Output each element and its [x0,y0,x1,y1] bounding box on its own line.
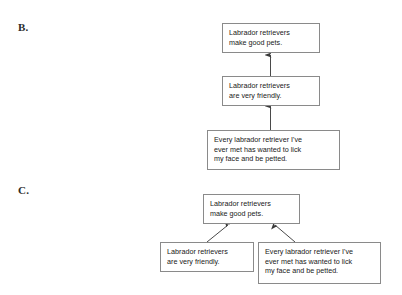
argument-diagram-figure: B. Labrador retrievers make good pets. L… [0,0,402,295]
arrow-c-friendly-to-conclusion [207,225,228,242]
part-label-c: C. [18,185,29,196]
box-c-premise-evidence: Every labrador retriever I've ever met h… [258,242,381,284]
box-b-premise-evidence: Every labrador retriever I've ever met h… [207,130,340,170]
arrow-c-evidence-to-conclusion [275,225,295,242]
box-b-intermediate-friendly: Labrador retrievers are very friendly. [222,76,320,106]
box-c-premise-friendly: Labrador retrievers are very friendly. [160,242,254,272]
box-b-conclusion: Labrador retrievers make good pets. [222,23,320,53]
part-label-b: B. [18,22,29,33]
box-c-conclusion: Labrador retrievers make good pets. [203,194,300,224]
